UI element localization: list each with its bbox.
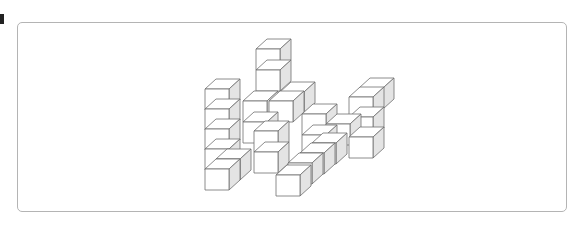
cube-structure-diagram: [0, 0, 580, 228]
cube-front-face: [256, 70, 280, 91]
cube-front-face: [205, 169, 229, 190]
cube-front-face: [276, 175, 300, 196]
cube-front-face: [349, 137, 373, 158]
cube-front-face: [254, 152, 278, 173]
